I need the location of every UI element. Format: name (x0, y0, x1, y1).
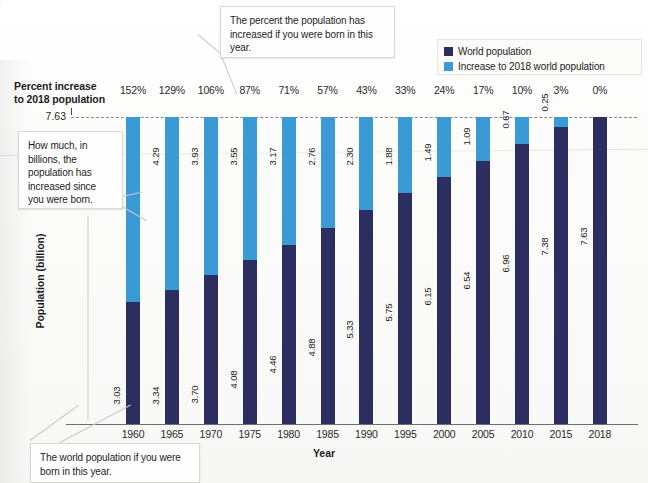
bar-segment-world-population[interactable]: 4.88 (321, 228, 335, 424)
leader-line-percent-b (198, 34, 222, 54)
chart-legend: World population Increase to 2018 world … (437, 39, 642, 75)
bar-value-label-increase: 3.55 (227, 147, 238, 165)
bar-column[interactable]: 1.496.15 (437, 117, 451, 424)
percent-increase-header: Percent increase to 2018 population (14, 80, 118, 106)
bar-value-label-increase: 1.49 (422, 143, 433, 161)
x-axis-label: 2005 (463, 428, 503, 440)
bar-column[interactable]: 7.63 (593, 117, 607, 424)
bar-value-label-increase: 1.88 (383, 147, 394, 165)
callout-billions-explanation: How much, in billions, the population ha… (18, 131, 123, 209)
x-axis-label: 1985 (308, 428, 348, 440)
percent-increase-label: 24% (425, 84, 463, 96)
percent-increase-label: 106% (192, 84, 230, 96)
bar-segment-increase[interactable]: 3.55 (243, 117, 257, 260)
bar-segment-increase[interactable]: 2.76 (321, 117, 335, 228)
bar-value-label-world-population: 7.63 (577, 227, 588, 245)
percent-increase-label: 129% (153, 84, 191, 96)
percent-increase-label: 71% (270, 84, 308, 96)
bar-value-label-world-population: 3.03 (111, 386, 122, 404)
y-axis-tick (71, 108, 72, 115)
percent-increase-label: 17% (464, 84, 502, 96)
bar-value-label-increase: 2.30 (344, 147, 355, 165)
x-axis-label: 2000 (424, 428, 464, 440)
bar-value-label-world-population: 6.96 (500, 254, 511, 272)
bar-value-label-increase: 4.29 (149, 147, 160, 165)
percent-increase-label: 152% (114, 84, 152, 96)
bar-segment-world-population[interactable]: 6.15 (437, 177, 451, 424)
y-axis-max-label: 7.63 (24, 110, 66, 122)
bar-value-label-world-population: 4.08 (227, 370, 238, 388)
bar-value-label-world-population: 6.54 (461, 271, 472, 289)
x-axis-label: 1995 (385, 428, 425, 440)
bar-value-label-increase: 1.09 (461, 127, 472, 145)
bar-segment-increase[interactable]: 3.93 (204, 117, 218, 275)
bar-column[interactable]: 3.933.70 (204, 117, 218, 424)
y-axis-title: Population (billion) (34, 201, 46, 361)
bar-segment-increase[interactable]: 2.30 (359, 117, 373, 210)
x-axis-label: 2010 (502, 428, 542, 440)
bar-segment-increase[interactable]: 4.29 (165, 117, 179, 290)
bar-value-label-world-population: 5.33 (344, 320, 355, 338)
x-axis-label: 2015 (541, 428, 581, 440)
bar-column[interactable]: 4.603.03 (126, 117, 140, 424)
bar-value-label-increase: 0.67 (500, 110, 511, 128)
x-axis-line (66, 424, 638, 425)
bar-segment-increase[interactable]: 3.17 (282, 117, 296, 245)
bar-segment-world-population[interactable]: 6.96 (515, 144, 529, 424)
bar-value-label-increase: 2.76 (305, 147, 316, 165)
bar-column[interactable]: 1.096.54 (476, 117, 490, 424)
bar-column[interactable]: 3.554.08 (243, 117, 257, 424)
callout-world-population-explanation: The world population if you were born in… (30, 443, 200, 483)
legend-item-world-population: World population (444, 44, 635, 59)
bar-value-label-increase: 3.17 (266, 147, 277, 165)
bar-column[interactable]: 0.676.96 (515, 117, 529, 424)
x-axis-label: 1970 (191, 428, 231, 440)
bar-value-label-increase: 0.25 (538, 94, 549, 112)
bracket-left-vertical (88, 216, 89, 421)
x-axis-label: 2018 (580, 428, 620, 440)
bar-column[interactable]: 3.174.46 (282, 117, 296, 424)
bar-value-label-world-population: 3.34 (149, 386, 160, 404)
bar-segment-world-population[interactable]: 6.54 (476, 161, 490, 424)
population-bar-chart: Percent increase to 2018 population 152%… (0, 0, 648, 483)
bar-value-label-world-population: 7.38 (538, 238, 549, 256)
bar-segment-world-population[interactable]: 4.46 (282, 245, 296, 424)
bar-segment-increase[interactable]: 1.88 (398, 117, 412, 193)
callout-percent-explanation: The percent the population has increased… (220, 6, 395, 58)
bar-segment-world-population[interactable]: 7.38 (554, 127, 568, 424)
bar-segment-increase[interactable]: 1.49 (437, 117, 451, 177)
bar-column[interactable]: 4.293.34 (165, 117, 179, 424)
bar-segment-world-population[interactable]: 5.75 (398, 193, 412, 424)
x-axis-label: 1990 (346, 428, 386, 440)
bar-segment-world-population[interactable]: 7.63 (593, 117, 607, 424)
bar-segment-world-population[interactable]: 3.70 (204, 275, 218, 424)
bar-column[interactable]: 2.305.33 (359, 117, 373, 424)
bar-column[interactable]: 0.257.38 (554, 117, 568, 424)
bar-segment-increase[interactable]: 0.25 (554, 117, 568, 127)
bar-segment-world-population[interactable]: 5.33 (359, 210, 373, 424)
x-axis-label: 1980 (269, 428, 309, 440)
reference-line-763 (71, 117, 637, 118)
percent-increase-label: 0% (581, 84, 619, 96)
bar-column[interactable]: 2.764.88 (321, 117, 335, 424)
legend-label-increase: Increase to 2018 world population (458, 61, 605, 72)
x-axis-label: 1965 (152, 428, 192, 440)
legend-item-increase: Increase to 2018 world population (444, 59, 635, 74)
percent-increase-label: 43% (347, 84, 385, 96)
bar-value-label-world-population: 3.70 (188, 386, 199, 404)
bar-column[interactable]: 1.885.75 (398, 117, 412, 424)
bar-segment-increase[interactable]: 0.67 (515, 117, 529, 144)
legend-swatch-icon-increase (444, 62, 453, 71)
x-axis-label: 1960 (113, 428, 153, 440)
percent-increase-header-line1: Percent increase (14, 80, 118, 93)
bar-segment-increase[interactable]: 1.09 (476, 117, 490, 161)
bar-value-label-world-population: 4.88 (305, 338, 316, 356)
bar-segment-world-population[interactable]: 3.34 (165, 290, 179, 424)
legend-swatch-icon-world-population (444, 47, 453, 56)
legend-label-world-population: World population (458, 46, 531, 57)
bar-segment-world-population[interactable]: 4.08 (243, 260, 257, 424)
x-axis-label: 1975 (230, 428, 270, 440)
bar-value-label-world-population: 4.46 (266, 355, 277, 373)
percent-increase-label: 57% (309, 84, 347, 96)
bar-value-label-world-population: 5.75 (383, 303, 394, 321)
